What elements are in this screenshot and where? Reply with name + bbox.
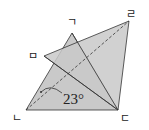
angle-label: 23° — [63, 92, 84, 107]
point-label-mieum: ㅁ — [28, 51, 38, 62]
point-label-rieul: ㄹ — [126, 9, 136, 20]
geometry-diagram: ㄱ ㄹ ㅁ ㄴ ㄷ 23° — [0, 0, 149, 130]
point-label-nieun: ㄴ — [12, 113, 22, 124]
point-label-giyeok: ㄱ — [67, 17, 77, 28]
point-label-digeut: ㄷ — [120, 113, 130, 124]
